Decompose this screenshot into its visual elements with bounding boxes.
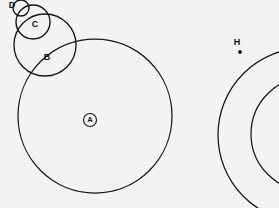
label-a: A [87,115,93,124]
label-d: D [9,0,16,10]
label-h: H [234,37,241,47]
circle-outer-right [218,48,279,208]
figure-canvas: A B C D H [0,0,279,208]
circle-d [13,0,29,16]
point-h-marker [238,50,242,54]
label-b: B [44,52,51,62]
label-c: C [32,19,39,29]
circles-diagram: A B C D H [0,0,279,208]
circle-inner-right [251,77,279,191]
